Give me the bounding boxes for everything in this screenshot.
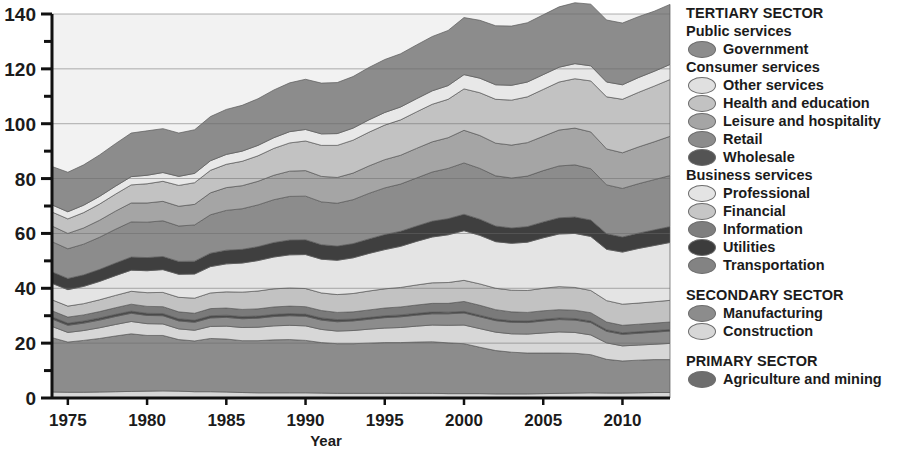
chart-plot-area: 0204060801001201401975198019851990199520… — [0, 0, 672, 459]
legend-item[interactable]: Professional — [686, 184, 911, 202]
legend-item[interactable]: Manufacturing — [686, 304, 911, 322]
legend-color-swatch-icon — [688, 323, 716, 340]
x-tick-label: 1995 — [366, 411, 404, 430]
legend-item[interactable]: Information — [686, 220, 911, 238]
legend-color-swatch-icon — [688, 149, 716, 166]
y-tick-label: 80 — [15, 169, 36, 190]
x-axis-title: Year — [310, 432, 342, 449]
legend-item-label: Construction — [723, 322, 813, 340]
legend-color-swatch-icon — [688, 113, 716, 130]
legend-subgroup-title: Public services — [686, 22, 911, 40]
x-tick-label: 2005 — [524, 411, 562, 430]
x-tick-label: 2010 — [604, 411, 642, 430]
x-tick-label: 1985 — [207, 411, 245, 430]
legend-color-swatch-icon — [688, 77, 716, 94]
legend-item-label: Leisure and hospitality — [723, 112, 881, 130]
legend-color-swatch-icon — [688, 371, 716, 388]
legend-item-label: Manufacturing — [723, 304, 823, 322]
legend-item[interactable]: Leisure and hospitality — [686, 112, 911, 130]
legend-item[interactable]: Health and education — [686, 94, 911, 112]
legend-item[interactable]: Retail — [686, 130, 911, 148]
legend-subgroup-title: Consumer services — [686, 58, 911, 76]
y-tick-label: 20 — [15, 333, 36, 354]
legend-item-label: Information — [723, 220, 803, 238]
legend-spacer — [686, 340, 911, 352]
legend-sector-title: PRIMARY SECTOR — [686, 352, 911, 370]
legend-item[interactable]: Utilities — [686, 238, 911, 256]
legend-color-swatch-icon — [688, 221, 716, 238]
legend-color-swatch-icon — [688, 41, 716, 58]
legend-color-swatch-icon — [688, 131, 716, 148]
legend-color-swatch-icon — [688, 305, 716, 322]
legend-item[interactable]: Construction — [686, 322, 911, 340]
x-tick-label: 1990 — [287, 411, 325, 430]
legend-subgroup-title: Business services — [686, 166, 911, 184]
legend-item[interactable]: Wholesale — [686, 148, 911, 166]
x-tick-label: 2000 — [445, 411, 483, 430]
legend-spacer — [686, 274, 911, 286]
stacked-area-chart: 0204060801001201401975198019851990199520… — [0, 0, 672, 459]
legend-item-label: Other services — [723, 76, 824, 94]
legend-sector-title: SECONDARY SECTOR — [686, 286, 911, 304]
legend-item-label: Health and education — [723, 94, 870, 112]
legend-color-swatch-icon — [688, 95, 716, 112]
y-tick-label: 0 — [25, 388, 36, 409]
y-tick-label: 100 — [4, 114, 36, 135]
legend-item-label: Transportation — [723, 256, 825, 274]
legend-item-label: Financial — [723, 202, 786, 220]
y-tick-label: 120 — [4, 59, 36, 80]
legend-color-swatch-icon — [688, 203, 716, 220]
chart-legend: TERTIARY SECTORPublic servicesGovernment… — [672, 0, 911, 459]
y-tick-label: 60 — [15, 223, 36, 244]
legend-color-swatch-icon — [688, 257, 716, 274]
legend-item-label: Agriculture and mining — [723, 370, 882, 388]
y-tick-label: 40 — [15, 278, 36, 299]
legend-item-label: Utilities — [723, 238, 775, 256]
legend-item[interactable]: Government — [686, 40, 911, 58]
legend-item-label: Professional — [723, 184, 810, 202]
legend-color-swatch-icon — [688, 239, 716, 256]
legend-item-label: Wholesale — [723, 148, 795, 166]
legend-item[interactable]: Other services — [686, 76, 911, 94]
legend-item[interactable]: Agriculture and mining — [686, 370, 911, 388]
y-tick-label: 140 — [4, 4, 36, 25]
legend-color-swatch-icon — [688, 185, 716, 202]
legend-item[interactable]: Transportation — [686, 256, 911, 274]
legend-item-label: Retail — [723, 130, 763, 148]
legend-item[interactable]: Financial — [686, 202, 911, 220]
legend-sector-title: TERTIARY SECTOR — [686, 4, 911, 22]
legend-item-label: Government — [723, 40, 808, 58]
x-tick-label: 1975 — [49, 411, 87, 430]
x-tick-label: 1980 — [128, 411, 166, 430]
